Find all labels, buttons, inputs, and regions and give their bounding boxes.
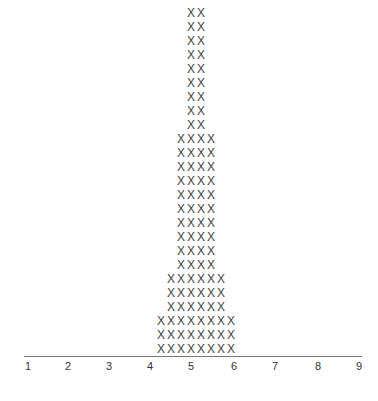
x-tick-label: 3 <box>106 360 112 372</box>
x-mark: X <box>206 161 216 173</box>
x-mark: X <box>206 189 216 201</box>
x-mark: X <box>166 301 176 313</box>
x-tick-label: 6 <box>231 360 237 372</box>
x-mark: X <box>206 343 216 355</box>
x-mark: X <box>206 231 216 243</box>
x-mark: X <box>206 203 216 215</box>
x-mark: X <box>176 133 186 145</box>
x-mark: X <box>196 273 206 285</box>
x-tick-label: 4 <box>147 360 153 372</box>
x-mark: X <box>206 301 216 313</box>
x-mark: X <box>186 301 196 313</box>
x-mark: X <box>186 273 196 285</box>
x-mark: X <box>206 245 216 257</box>
x-mark: X <box>176 203 186 215</box>
x-mark: X <box>196 203 206 215</box>
x-mark: X <box>206 147 216 159</box>
dot-plot: XXXXXXXXXXXXXXXXXXXXXXXXXXXXXXXXXXXXXXXX… <box>0 0 378 401</box>
x-mark: X <box>166 273 176 285</box>
x-mark: X <box>176 147 186 159</box>
x-mark: X <box>186 63 196 75</box>
x-mark: X <box>206 287 216 299</box>
x-mark: X <box>186 77 196 89</box>
x-mark: X <box>196 133 206 145</box>
x-mark: X <box>196 259 206 271</box>
x-mark: X <box>216 287 226 299</box>
x-mark: X <box>196 329 206 341</box>
x-mark: X <box>186 161 196 173</box>
x-mark: X <box>196 35 206 47</box>
x-mark: X <box>176 329 186 341</box>
x-mark: X <box>206 133 216 145</box>
x-mark: X <box>176 343 186 355</box>
x-mark: X <box>186 245 196 257</box>
x-mark: X <box>196 119 206 131</box>
x-mark: X <box>176 287 186 299</box>
x-tick-label: 5 <box>188 360 194 372</box>
x-axis-line <box>24 356 362 357</box>
x-mark: X <box>216 329 226 341</box>
x-mark: X <box>196 287 206 299</box>
x-mark: X <box>196 77 206 89</box>
x-mark: X <box>196 343 206 355</box>
x-mark: X <box>196 315 206 327</box>
x-mark: X <box>156 343 166 355</box>
x-mark: X <box>206 273 216 285</box>
x-mark: X <box>186 203 196 215</box>
x-mark: X <box>196 91 206 103</box>
x-mark: X <box>186 91 196 103</box>
x-mark: X <box>196 245 206 257</box>
x-tick-label: 7 <box>272 360 278 372</box>
x-mark: X <box>196 21 206 33</box>
x-mark: X <box>226 343 236 355</box>
x-mark: X <box>206 217 216 229</box>
x-mark: X <box>216 315 226 327</box>
x-mark: X <box>186 35 196 47</box>
x-mark: X <box>176 245 186 257</box>
x-mark: X <box>186 119 196 131</box>
x-mark: X <box>166 287 176 299</box>
x-mark: X <box>186 217 196 229</box>
x-mark: X <box>176 217 186 229</box>
x-mark: X <box>176 175 186 187</box>
x-mark: X <box>216 301 226 313</box>
x-mark: X <box>156 329 166 341</box>
x-mark: X <box>206 315 216 327</box>
x-mark: X <box>206 329 216 341</box>
x-mark: X <box>166 329 176 341</box>
x-mark: X <box>196 301 206 313</box>
x-mark: X <box>176 161 186 173</box>
x-mark: X <box>186 329 196 341</box>
x-mark: X <box>216 273 226 285</box>
x-mark: X <box>186 259 196 271</box>
x-mark: X <box>186 105 196 117</box>
x-mark: X <box>186 315 196 327</box>
x-mark: X <box>196 63 206 75</box>
x-mark: X <box>196 189 206 201</box>
x-mark: X <box>166 343 176 355</box>
x-mark: X <box>206 175 216 187</box>
x-mark: X <box>176 259 186 271</box>
x-mark: X <box>196 7 206 19</box>
x-mark: X <box>186 231 196 243</box>
x-mark: X <box>166 315 176 327</box>
x-mark: X <box>156 315 166 327</box>
x-mark: X <box>196 217 206 229</box>
x-mark: X <box>186 287 196 299</box>
x-mark: X <box>216 343 226 355</box>
x-mark: X <box>186 189 196 201</box>
x-mark: X <box>176 315 186 327</box>
x-mark: X <box>226 329 236 341</box>
x-mark: X <box>226 315 236 327</box>
x-mark: X <box>176 273 186 285</box>
x-tick-label: 2 <box>65 360 71 372</box>
x-mark: X <box>176 231 186 243</box>
x-mark: X <box>186 21 196 33</box>
x-mark: X <box>196 147 206 159</box>
x-mark: X <box>196 105 206 117</box>
x-mark: X <box>206 259 216 271</box>
x-mark: X <box>196 49 206 61</box>
x-mark: X <box>176 189 186 201</box>
x-mark: X <box>176 301 186 313</box>
x-mark: X <box>186 343 196 355</box>
